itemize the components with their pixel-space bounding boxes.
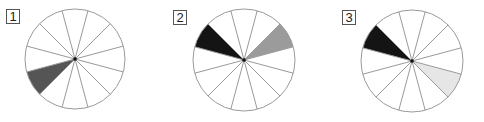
panel-label-1: 1 — [6, 9, 20, 24]
radial-line — [75, 24, 110, 59]
radial-line — [75, 46, 123, 59]
radial-line — [244, 60, 257, 109]
circle-3 — [361, 10, 463, 112]
radial-line — [75, 11, 88, 59]
shaded-sector — [195, 24, 244, 60]
radial-line — [40, 24, 75, 59]
radial-line — [195, 60, 244, 73]
shaded-sector — [412, 61, 461, 97]
center-dot — [410, 59, 414, 63]
circle-2 — [193, 9, 295, 111]
radial-line — [412, 12, 425, 61]
circle-1 — [25, 9, 125, 109]
radial-line — [75, 59, 88, 107]
center-dot — [242, 58, 246, 62]
radial-line — [75, 59, 123, 72]
shaded-sector — [27, 59, 75, 94]
radial-line — [27, 46, 75, 59]
radial-line — [244, 60, 280, 96]
radial-line — [412, 48, 461, 61]
radial-line — [363, 61, 412, 74]
radial-line — [231, 60, 244, 109]
shaded-sector — [244, 24, 293, 60]
radial-line — [208, 60, 244, 96]
panel-label-2: 2 — [173, 10, 187, 25]
shaded-sector — [363, 25, 412, 61]
radial-line — [376, 61, 412, 97]
radial-line — [75, 59, 110, 94]
center-dot — [73, 57, 77, 61]
radial-line — [244, 60, 293, 73]
radial-line — [62, 11, 75, 59]
circle-fraction-diagram — [0, 0, 484, 122]
radial-line — [412, 25, 448, 61]
panel-label-3: 3 — [342, 10, 356, 25]
radial-line — [399, 61, 412, 110]
